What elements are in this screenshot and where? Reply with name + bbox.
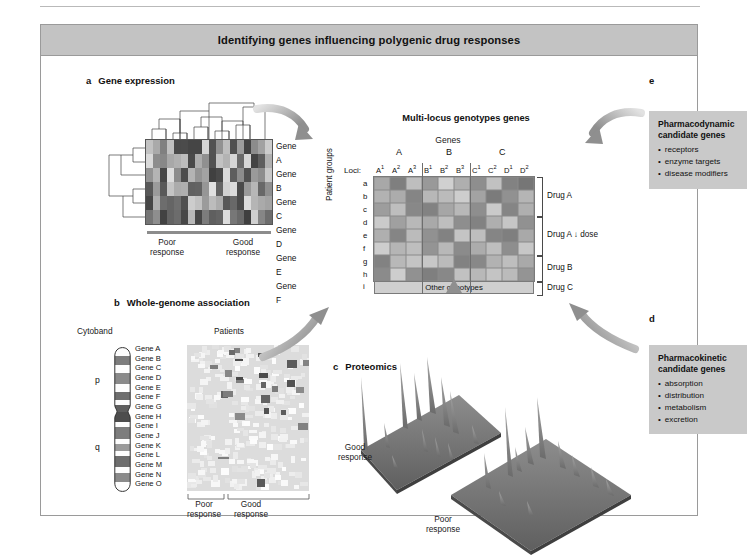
poor-response-surface-label: Poor response (411, 515, 475, 535)
arrow-b-to-matrix (263, 307, 329, 357)
poor-label-line2: response (411, 525, 475, 535)
arrow-d-to-matrix (569, 303, 635, 349)
figure-frame: Identifying genes influencing polygenic … (40, 24, 698, 516)
arrow-e-to-matrix (585, 112, 641, 144)
top-rule (40, 6, 700, 7)
flow-arrows (41, 25, 699, 517)
arrow-a-to-matrix (257, 108, 313, 140)
arrow-c-to-matrix (446, 279, 462, 345)
